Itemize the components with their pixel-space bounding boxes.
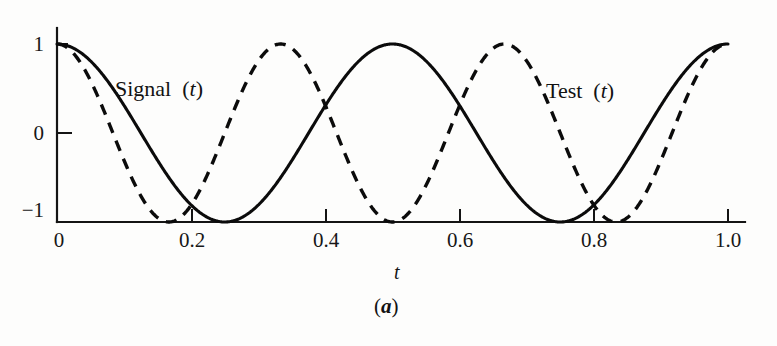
figure-caption: (a)	[374, 294, 399, 319]
x-tick-label-0-2: 0.2	[168, 228, 216, 253]
series-line-signal	[57, 44, 728, 222]
y-tick-label-0: 0	[10, 121, 44, 146]
series-label-signal: Signal (t)	[115, 76, 203, 102]
x-tick-label-0-4: 0.4	[302, 228, 350, 253]
y-tick-label-1: 1	[10, 32, 44, 57]
x-tick-label-0-6: 0.6	[436, 228, 484, 253]
figure-panel: 1 0 −1 0 0.2 0.4 0.6 0.8 1.0 Signal (t) …	[0, 0, 777, 346]
x-axis-ticks	[192, 209, 728, 222]
y-axis-ticks	[57, 44, 72, 133]
x-tick-label-0: 0	[50, 228, 68, 253]
series-label-test-text: Test	[546, 78, 582, 103]
series-label-test: Test (t)	[546, 78, 614, 104]
x-tick-label-1-0: 1.0	[704, 228, 752, 253]
figure-caption-letter: a	[381, 294, 392, 318]
x-tick-label-0-8: 0.8	[570, 228, 618, 253]
x-axis-title: t	[394, 261, 400, 284]
series-line-test	[57, 44, 728, 222]
y-tick-label-minus1: −1	[6, 198, 44, 223]
series-label-signal-text: Signal	[115, 76, 171, 101]
